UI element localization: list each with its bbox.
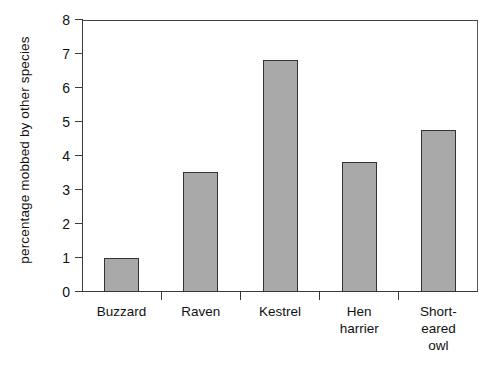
y-axis-tick-label: 8 bbox=[44, 13, 70, 27]
y-axis-title: percentage mobbed by other species bbox=[14, 0, 36, 300]
y-axis-tick-label: 4 bbox=[44, 149, 70, 163]
y-axis-tick-label-text: 6 bbox=[48, 81, 70, 95]
y-axis-tick-label-text: 2 bbox=[48, 217, 70, 231]
x-axis-tick bbox=[319, 292, 320, 300]
x-axis-tick bbox=[398, 292, 399, 300]
x-axis-tick bbox=[161, 292, 162, 300]
y-axis-tick-label-text: 0 bbox=[48, 285, 70, 299]
x-axis-category-label: Kestrel bbox=[240, 303, 319, 320]
y-axis-tick-label: 1 bbox=[44, 251, 70, 265]
bar bbox=[183, 172, 218, 292]
y-axis-tick-label: 7 bbox=[44, 47, 70, 61]
y-axis-tick-label-text: 4 bbox=[48, 149, 70, 163]
x-axis-category-label: Hen harrier bbox=[320, 303, 399, 337]
x-axis-category-label: Buzzard bbox=[82, 303, 161, 320]
y-axis-tick-label-text: 1 bbox=[48, 251, 70, 265]
bar-chart-figure: percentage mobbed by other species 01234… bbox=[0, 0, 500, 372]
y-axis-tick-label: 2 bbox=[44, 217, 70, 231]
y-axis-tick-label: 6 bbox=[44, 81, 70, 95]
y-axis-tick-label: 5 bbox=[44, 115, 70, 129]
bar bbox=[263, 60, 298, 292]
x-axis-category-label: Short- eared owl bbox=[399, 303, 478, 354]
bar bbox=[421, 130, 456, 292]
x-axis-category-label: Raven bbox=[161, 303, 240, 320]
x-axis-tick bbox=[240, 292, 241, 300]
y-axis-tick-label: 0 bbox=[44, 285, 70, 299]
y-axis-tick-label-text: 5 bbox=[48, 115, 70, 129]
y-axis-tick-label: 3 bbox=[44, 183, 70, 197]
y-axis-tick-label-text: 7 bbox=[48, 47, 70, 61]
y-axis-tick-label-text: 3 bbox=[48, 183, 70, 197]
bar bbox=[342, 162, 377, 292]
y-axis-tick-label-text: 8 bbox=[48, 13, 70, 27]
bar bbox=[104, 258, 139, 292]
